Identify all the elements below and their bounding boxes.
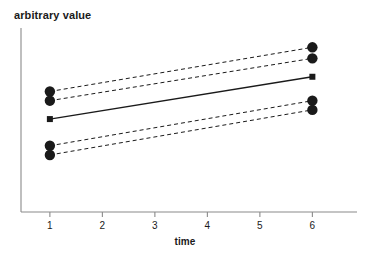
data-point-circle [45, 141, 55, 151]
data-point-circle [45, 95, 55, 105]
data-point-circle [45, 86, 55, 96]
data-point-circle [307, 95, 317, 105]
data-point-circle [307, 42, 317, 52]
x-tick-label: 1 [40, 220, 60, 231]
data-point-square [47, 116, 53, 122]
series-line [50, 58, 313, 100]
series-center-solid [47, 74, 316, 122]
series-line [50, 101, 313, 146]
axis-lines [21, 28, 357, 212]
data-point-circle [307, 105, 317, 115]
x-tick-label: 4 [197, 220, 217, 231]
x-tick-label: 5 [250, 220, 270, 231]
x-tick-label: 3 [145, 220, 165, 231]
chart-figure: arbitrary value 123456 time [0, 0, 370, 256]
data-series-group [45, 42, 318, 160]
series-upper-outer [45, 42, 318, 97]
series-line [50, 47, 313, 91]
x-tick-label: 2 [92, 220, 112, 231]
data-point-circle [307, 53, 317, 63]
plot-area [0, 0, 370, 256]
data-point-circle [45, 150, 55, 160]
x-axis-ticks [50, 212, 313, 217]
series-lower-inner [45, 95, 318, 150]
x-tick-label: 6 [302, 220, 322, 231]
data-point-square [309, 74, 315, 80]
series-line [50, 110, 313, 155]
x-axis-label: time [0, 236, 370, 247]
series-line [50, 77, 313, 119]
